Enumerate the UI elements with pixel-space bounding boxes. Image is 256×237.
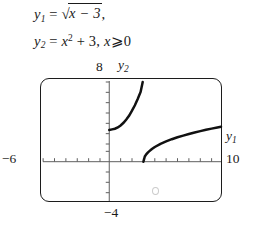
y-min-label: −4 (104, 205, 118, 221)
equation-line-y1: y1 = √x − 3, (34, 4, 234, 29)
curve-label-y1: y1 (226, 128, 237, 145)
equation-y2-rest: + 3, (77, 32, 100, 48)
curve-y1-visible (143, 127, 221, 162)
curve-label-y2-subscript: 2 (124, 64, 129, 74)
equation-y1-comma: , (102, 6, 106, 22)
equation-block: y1 = √x − 3, y2 = x2 + 3, x⩾0 (34, 4, 234, 55)
graphing-calculator-screen (40, 78, 222, 202)
equation-y2-domain-value: 0 (124, 32, 131, 48)
equation-y1-radicand: x − 3 (68, 3, 102, 23)
plot-area (41, 79, 223, 203)
curve-y1-main (212, 155, 217, 162)
y-max-label: 8 (96, 59, 103, 75)
equation-y2-domain-var: x (104, 32, 111, 48)
greater-equal-icon: ⩾ (111, 32, 124, 48)
equation-y2-exponent: 2 (68, 33, 73, 43)
scan-artifact-mark (152, 187, 159, 195)
equation-y1-subscript: 1 (41, 14, 46, 24)
equation-y2-lhs: y (34, 32, 41, 48)
curve-label-y2: y2 (118, 57, 129, 74)
x-max-label: 10 (226, 151, 240, 167)
x-axis-ticks (43, 158, 211, 162)
equation-y1-lhs: y (34, 6, 41, 22)
y-axis-ticks (106, 82, 110, 193)
equation-y2-equals: = (49, 32, 57, 48)
equation-y1-equals: = (49, 6, 57, 22)
curve-y1-plot (212, 153, 221, 162)
curve-label-y1-subscript: 1 (232, 135, 237, 145)
curve-y2 (109, 82, 142, 130)
equation-y2-subscript: 2 (41, 40, 46, 50)
equation-line-y2: y2 = x2 + 3, x⩾0 (34, 29, 234, 55)
x-min-label: −6 (2, 151, 16, 167)
